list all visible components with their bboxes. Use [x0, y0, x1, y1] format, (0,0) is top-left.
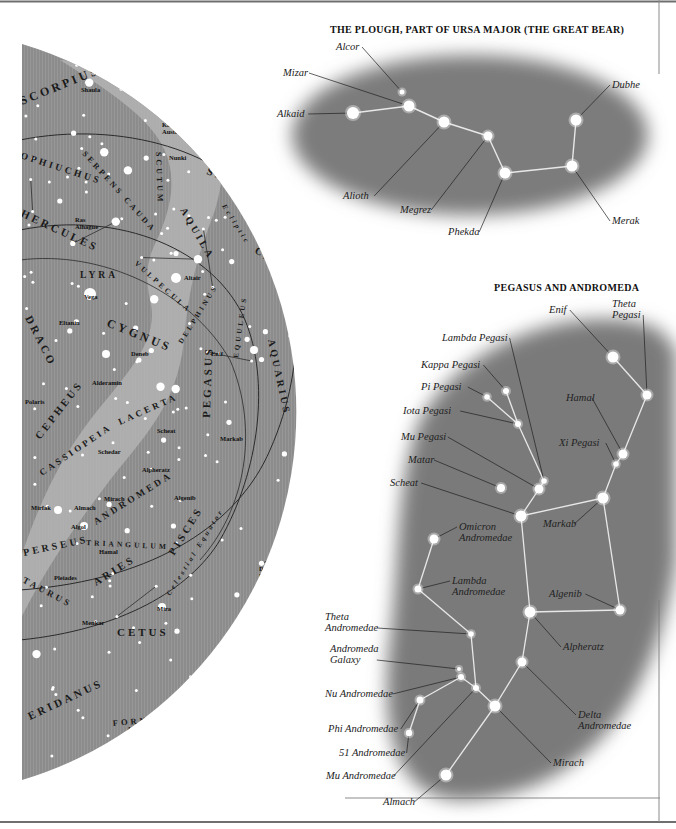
map-star-icon — [161, 438, 166, 443]
map-star-icon — [198, 112, 201, 115]
star-label-phi-andromedae: Phi Andromedae — [327, 723, 399, 734]
star-label-alkaid: Alkaid — [276, 108, 305, 119]
star-label-theta-andromedae: ThetaAndromedae — [324, 611, 379, 633]
star-icon-51-andromedae — [406, 730, 412, 736]
star-label-matar: Matar — [407, 454, 435, 465]
bright-star-icon — [323, 435, 334, 446]
map-star-icon — [107, 734, 110, 737]
star-label-polaris: Polaris — [25, 398, 45, 405]
star-label-markab: Markab — [542, 518, 576, 529]
map-star-icon — [201, 270, 204, 273]
map-star-icon — [259, 240, 262, 243]
map-star-icon — [114, 397, 117, 400]
star-atlas-canvas: SCORPIUSCORONAAUSTRALISOPHIUCHUSSERPENS … — [0, 0, 676, 829]
bright-star-icon — [102, 350, 110, 358]
map-star-icon — [140, 256, 143, 259]
star-icon-theta-andromedae — [468, 631, 474, 637]
map-star-icon — [233, 107, 236, 110]
star-icon-theta-pegasi — [643, 391, 652, 400]
star-icon-alpheratz — [525, 607, 536, 618]
map-star-icon — [123, 476, 126, 479]
map-star-icon — [173, 251, 178, 256]
star-label-hamal: Hamal — [565, 392, 595, 403]
star-label-eltanin: Eltanin — [59, 319, 80, 326]
map-star-icon — [204, 454, 207, 457]
map-star-icon — [206, 433, 209, 436]
star-label-zaurak: Zaurak — [304, 566, 325, 573]
map-star-icon — [185, 406, 188, 409]
star-label-mirach: Mirach — [104, 495, 125, 502]
map-star-icon — [282, 451, 287, 456]
map-star-icon — [183, 107, 191, 115]
star-icon-xi-pegasi — [613, 461, 619, 467]
map-star-icon — [249, 132, 252, 135]
map-star-icon — [57, 198, 62, 203]
constellation-label-lyra: LYRA — [80, 270, 118, 280]
map-star-icon — [80, 147, 83, 150]
constellation-label-grus: GRUS — [350, 400, 362, 440]
map-star-icon — [166, 227, 169, 230]
star-label-algenib: Algenib — [174, 494, 196, 501]
map-star-icon — [42, 382, 45, 385]
map-star-icon — [72, 54, 75, 57]
star-label-nu-andromedae: Nu Andromedae — [324, 688, 393, 699]
star-icon-nu-andromedae — [458, 674, 464, 680]
star-label-vega: Vega — [84, 293, 98, 300]
map-star-icon — [189, 110, 192, 113]
map-star-icon — [358, 539, 361, 542]
star-icon-mizar — [404, 101, 415, 112]
star-label-mu-andromedae: Mu Andromedae — [325, 770, 396, 781]
map-star-icon — [333, 374, 336, 377]
map-star-icon — [300, 654, 303, 657]
star-label-enif: Enif — [548, 304, 569, 315]
map-star-icon — [76, 405, 79, 408]
map-star-icon — [239, 141, 242, 144]
star-label-alderamin: Alderamin — [92, 379, 122, 386]
star-label-schedar: Schedar — [98, 448, 121, 455]
star-label-kaitos: Kaitos — [259, 572, 278, 579]
map-star-icon — [83, 45, 86, 48]
map-star-icon — [176, 408, 179, 411]
map-star-icon — [33, 407, 36, 410]
constellation-label-austrinus: AUSTRINUS — [310, 370, 333, 447]
map-star-icon — [34, 137, 37, 140]
star-label-algol: Algol — [71, 523, 86, 530]
map-star-icon — [293, 237, 301, 245]
map-star-icon — [299, 460, 304, 465]
star-icon-delta-andromedae — [518, 658, 527, 667]
map-star-icon — [155, 585, 158, 588]
star-label-scheat: Scheat — [157, 427, 176, 434]
map-star-icon — [178, 128, 181, 131]
map-star-icon — [153, 104, 156, 107]
star-label-al: Al — [362, 360, 369, 367]
map-star-icon — [148, 724, 151, 727]
star-icon-phekda — [500, 168, 511, 179]
map-star-icon — [315, 561, 318, 564]
map-star-icon — [248, 325, 251, 328]
map-star-icon — [100, 148, 108, 156]
map-star-icon — [152, 258, 155, 261]
map-star-icon — [102, 332, 105, 335]
map-star-icon — [191, 681, 194, 684]
map-star-icon — [320, 345, 323, 348]
map-star-icon — [277, 174, 280, 177]
map-star-icon — [220, 650, 225, 655]
star-label-shaula: Shaula — [81, 86, 101, 93]
map-star-icon — [28, 224, 31, 227]
star-label-alhague: Alhague — [75, 223, 98, 230]
star-icon-alkaid — [347, 107, 359, 119]
map-star-icon — [194, 255, 202, 263]
map-star-icon — [138, 641, 141, 644]
map-star-icon — [32, 650, 40, 658]
map-star-icon — [280, 525, 285, 530]
map-star-icon — [170, 252, 173, 255]
star-label-alioth: Alioth — [342, 190, 369, 201]
map-star-icon — [125, 302, 128, 305]
map-star-icon — [229, 259, 234, 264]
star-label-menkar: Menkar — [82, 619, 105, 626]
star-label-mizar: Mizar — [282, 67, 309, 78]
map-star-icon — [227, 702, 230, 705]
star-label-pi-pegasi: Pi Pegasi — [420, 381, 462, 392]
star-label-nair: Nair — [360, 367, 373, 374]
map-star-icon — [349, 571, 352, 574]
